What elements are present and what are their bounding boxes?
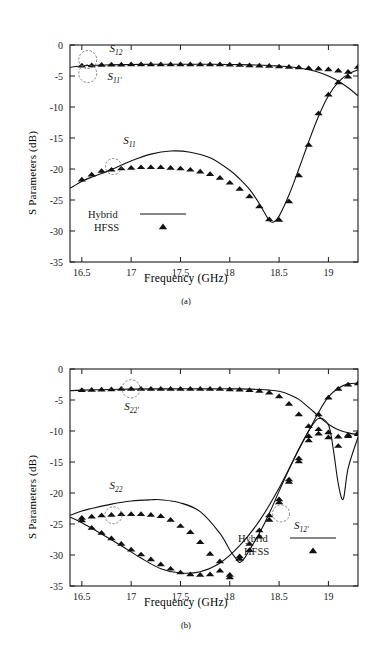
series-marker: [117, 386, 125, 391]
series-marker: [137, 386, 145, 391]
series-marker: [186, 571, 194, 576]
series-marker: [127, 386, 135, 391]
curve-label-s22p: S22': [124, 400, 139, 415]
panel-a: S Parameters (dB) 16.51717.51818.5190-5-…: [0, 0, 372, 324]
y-tick-label: -20: [50, 488, 63, 499]
series-marker: [137, 511, 145, 516]
curve-label-s12p: S12': [294, 519, 309, 534]
series-marker: [295, 65, 303, 70]
y-tick-label: 0: [58, 40, 63, 51]
series-marker: [295, 412, 303, 417]
legend: HybridHFSS: [88, 209, 186, 233]
series-marker: [285, 401, 293, 406]
y-tick-label: -30: [50, 550, 63, 561]
plot-area-b: 16.51717.51818.5190-5-10-15-20-25-30-35S…: [0, 324, 372, 609]
series-marker: [334, 79, 342, 84]
series-marker: [88, 172, 96, 177]
series-marker: [127, 547, 135, 552]
y-tick-label: -35: [50, 581, 63, 592]
series-marker: [176, 166, 184, 171]
series-marker: [314, 110, 322, 115]
series-marker: [216, 568, 224, 573]
y-tick-label: -5: [55, 395, 63, 406]
series-marker: [107, 386, 115, 391]
series-marker: [344, 382, 352, 387]
series-marker: [107, 167, 115, 172]
series-marker: [314, 66, 322, 71]
series-marker: [88, 514, 96, 519]
y-tick-label: -10: [50, 102, 63, 113]
series-marker: [107, 512, 115, 517]
y-tick-label: -35: [50, 257, 63, 268]
series-marker: [176, 570, 184, 575]
series-marker: [137, 164, 145, 169]
series-marker: [265, 513, 273, 518]
series-marker: [226, 180, 234, 185]
series-marker: [314, 431, 322, 436]
y-tick-label: -15: [50, 133, 63, 144]
panel-caption-a: (a): [0, 296, 372, 306]
series-marker: [157, 164, 165, 169]
y-tick-label: -30: [50, 226, 63, 237]
series-marker: [304, 142, 312, 147]
legend-line-label: Hybrid: [88, 209, 118, 220]
legend-marker-label: HFSS: [244, 546, 269, 557]
panel-caption-b: (b): [0, 620, 372, 630]
curve-label-s11p: S11': [107, 70, 121, 85]
y-tick-label: -10: [50, 426, 63, 437]
series-marker: [216, 175, 224, 180]
curve-label-s11: S11: [123, 134, 135, 149]
x-axis-label-a: Frequency (GHz): [0, 272, 372, 284]
series-marker: [324, 92, 332, 97]
series-marker: [255, 388, 263, 393]
series-marker: [97, 513, 105, 518]
y-tick-label: -15: [50, 457, 63, 468]
legend-marker-swatch: [309, 548, 317, 554]
series-marker: [275, 394, 283, 399]
series-marker: [157, 513, 165, 518]
series-marker: [166, 165, 174, 170]
y-tick-label: 0: [58, 364, 63, 375]
series-marker: [206, 171, 214, 176]
annotation-circle-s12p: [273, 505, 290, 522]
series-line: [70, 383, 358, 573]
series-marker: [334, 443, 342, 448]
series-marker: [354, 64, 362, 69]
series-marker: [265, 216, 273, 221]
series-marker: [334, 434, 342, 439]
panel-b: S Parameters (dB) 16.51717.51818.5190-5-…: [0, 324, 372, 648]
series-group: [70, 61, 362, 222]
series-marker: [304, 438, 312, 443]
series-line: [70, 70, 358, 223]
series-marker: [285, 477, 293, 482]
figure-s-parameters: S Parameters (dB) 16.51717.51818.5190-5-…: [0, 0, 372, 649]
series-marker: [334, 68, 342, 73]
series-marker: [235, 554, 243, 559]
x-axis-label-b: Frequency (GHz): [0, 596, 372, 608]
series-marker: [196, 539, 204, 544]
legend-marker-swatch: [159, 224, 167, 230]
y-tick-label: -25: [50, 195, 63, 206]
series-marker: [186, 529, 194, 534]
series-marker: [97, 62, 105, 67]
series-marker: [206, 571, 214, 576]
series-marker: [137, 552, 145, 557]
series-marker: [157, 562, 165, 567]
series-marker: [127, 61, 135, 66]
series-marker: [147, 557, 155, 562]
y-tick-label: -5: [55, 71, 63, 82]
series-marker: [304, 65, 312, 70]
series-marker: [324, 395, 332, 400]
series-marker: [127, 511, 135, 516]
series-marker: [88, 525, 96, 530]
series-marker: [147, 512, 155, 517]
series-marker: [324, 430, 332, 435]
series-marker: [314, 426, 322, 431]
series-marker: [235, 186, 243, 191]
series-marker: [78, 177, 86, 182]
series-marker: [196, 169, 204, 174]
series-marker: [176, 523, 184, 528]
series-marker: [226, 575, 234, 580]
legend-line-label: Hybrid: [238, 533, 268, 544]
series-marker: [324, 66, 332, 71]
